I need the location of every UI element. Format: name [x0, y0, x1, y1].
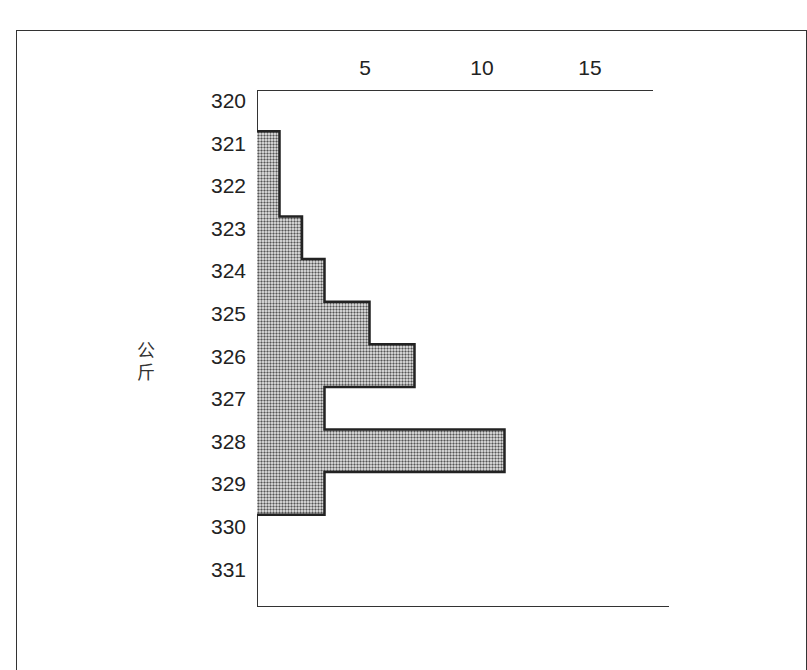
- bars-outline: [0, 0, 805, 647]
- histogram-chart: 5 10 15 32032132232332432532632732832933…: [0, 0, 805, 647]
